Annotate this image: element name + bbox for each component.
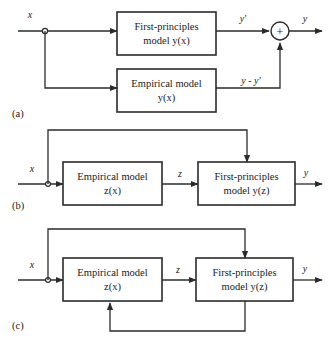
panel-a-signal-y: y [302,13,308,24]
panel-b-letter: (b) [12,200,25,212]
panel-a-signal-residual: y - y′ [240,75,261,86]
panel-c: Empirical model z(x) First-principles mo… [12,229,322,332]
panel-c-letter: (c) [12,320,24,332]
panel-b-first-principles-block [198,162,295,205]
panel-b-empirical-label-line2: z(x) [104,185,121,197]
panel-a-x-branch-line [45,31,117,88]
panel-c-first-principles-label-line2: model y(z) [222,281,268,293]
panel-a-empirical-label-line1: Empirical model [131,78,201,89]
panel-a-first-principles-label-line1: First-principles [134,21,198,32]
panel-c-signal-y: y [302,263,308,274]
panel-a-first-principles-block [117,12,216,55]
panel-c-feedback-line [110,301,245,331]
panel-c-signal-z: z [175,264,180,275]
panel-c-empirical-label-line1: Empirical model [77,267,147,278]
panel-a-summing-junction-plus: + [277,25,284,39]
panel-b: Empirical model z(x) First-principles mo… [12,130,322,212]
panel-c-signal-x: x [29,259,35,270]
panel-b-empirical-label-line1: Empirical model [77,171,147,182]
panel-b-signal-x: x [29,163,35,174]
panel-a-letter: (a) [12,108,24,120]
panel-b-signal-z: z [177,168,182,179]
panel-a-signal-yprime: y′ [239,13,247,24]
panel-a-first-principles-label-line2: model y(x) [143,35,190,47]
panel-b-first-principles-label-line1: First-principles [214,171,278,182]
panel-a: First-principles model y(x) Empirical mo… [12,9,322,120]
panel-a-signal-x: x [27,9,33,20]
panel-c-empirical-label-line2: z(x) [104,281,121,293]
panel-b-empirical-block [63,162,162,205]
block-diagram-figure: First-principles model y(x) Empirical mo… [0,0,332,351]
panel-b-signal-y: y [303,167,309,178]
panel-b-first-principles-label-line2: model y(z) [224,185,270,197]
panel-c-first-principles-block [196,258,293,301]
panel-c-first-principles-label-line1: First-principles [212,267,276,278]
panel-a-empirical-label-line2: y(x) [158,92,176,104]
panel-a-empirical-block [117,69,216,112]
panel-c-empirical-block [63,258,162,301]
